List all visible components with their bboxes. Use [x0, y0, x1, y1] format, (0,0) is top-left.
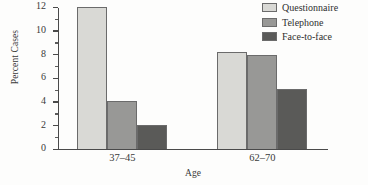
x-axis-line [58, 149, 328, 150]
y-axis-title: Percent Cases [10, 12, 20, 102]
legend-swatch-icon [262, 3, 277, 12]
legend: QuestionnaireTelephoneFace-to-face [262, 2, 338, 42]
bar [107, 101, 137, 148]
legend-item-label: Face-to-face [282, 31, 332, 42]
y-axis-tick-label: 10 [36, 23, 46, 37]
y-axis-minor-tick [55, 42, 59, 43]
y-axis-tick-label: 6 [41, 70, 46, 84]
y-axis-tick: 12 [53, 7, 58, 8]
y-axis-tick: 10 [53, 30, 58, 31]
legend-swatch-icon [262, 32, 277, 41]
y-axis-minor-tick [55, 66, 59, 67]
y-axis-minor-tick [55, 113, 59, 114]
y-axis-tick: 6 [53, 78, 58, 79]
y-axis-minor-tick [55, 19, 59, 20]
x-axis-category-label: 62–70 [192, 152, 332, 163]
y-axis-minor-tick [55, 90, 59, 91]
legend-item-label: Questionnaire [282, 2, 338, 13]
y-axis-tick: 0 [53, 149, 58, 150]
x-axis-category-label: 37–45 [52, 152, 192, 163]
bar-chart-figure: Percent Cases 024681012 37–4562–70 Age Q… [0, 0, 368, 185]
y-axis-tick-label: 2 [41, 118, 46, 132]
legend-item-label: Telephone [282, 17, 324, 28]
y-axis-tick-label: 12 [36, 0, 46, 13]
y-axis-tick: 4 [53, 101, 58, 102]
bar-group [77, 8, 167, 149]
y-axis-tick-label: 0 [41, 141, 46, 155]
bar [277, 89, 307, 148]
legend-swatch-icon [262, 18, 277, 27]
legend-item: Questionnaire [262, 2, 338, 13]
bar [137, 125, 167, 149]
y-axis-tick-label: 8 [41, 47, 46, 61]
legend-item: Telephone [262, 17, 338, 28]
legend-item: Face-to-face [262, 31, 338, 42]
bar [247, 55, 277, 148]
y-axis-minor-tick [55, 137, 59, 138]
x-axis-title: Age [58, 168, 328, 178]
bar [77, 7, 107, 149]
y-axis-tick: 2 [53, 125, 58, 126]
y-axis-tick-label: 4 [41, 94, 46, 108]
bar [217, 52, 247, 149]
y-axis-tick: 8 [53, 54, 58, 55]
